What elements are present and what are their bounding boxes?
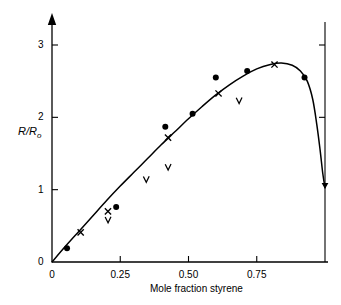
marker-circle (64, 245, 70, 251)
x-tick-label-0.25: 0.25 (111, 270, 130, 280)
marker-cross (215, 90, 221, 96)
marker-vee (105, 217, 111, 223)
y-tick-label-0: 0 (38, 257, 44, 267)
plot-area (0, 0, 341, 305)
x-axis-title: Mole fraction styrene (150, 283, 243, 294)
marker-cross (105, 208, 111, 214)
curve-endpoint-arrow (322, 183, 329, 189)
axes-group (48, 13, 328, 262)
marker-vee (165, 164, 171, 170)
marker-circle (213, 75, 219, 81)
fitted-curve (52, 63, 325, 262)
marker-circle (162, 124, 168, 130)
marker-circle (113, 204, 119, 210)
marker-circle (302, 75, 308, 81)
y-tick-label-1: 1 (38, 185, 44, 195)
marker-vee (143, 176, 149, 182)
y-axis-title: R/Ro (18, 126, 41, 141)
ticks-group (52, 45, 325, 262)
y-axis-title-subscript: o (37, 131, 41, 140)
data-markers (64, 61, 328, 251)
x-tick-label-0.50: 0.50 (179, 270, 198, 280)
y-axis-arrowhead (48, 13, 56, 25)
marker-vee (236, 98, 242, 104)
x-tick-label-0.75: 0.75 (247, 270, 266, 280)
y-tick-label-3: 3 (38, 40, 44, 50)
y-axis-title-base: R/R (18, 125, 37, 137)
marker-cross (165, 134, 171, 140)
marker-circle (190, 111, 196, 117)
marker-circle (244, 68, 250, 74)
chart-figure: R/Ro Mole fraction styrene 012300.250.50… (0, 0, 341, 305)
y-tick-label-2: 2 (38, 112, 44, 122)
x-tick-label-0: 0 (49, 270, 55, 280)
fitted-curve-path (52, 63, 325, 262)
